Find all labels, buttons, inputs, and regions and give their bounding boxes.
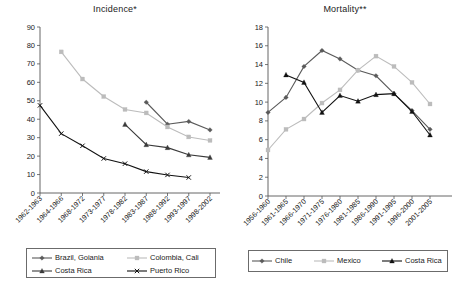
incidence-panel: Incidence* 01020304050607080901962-19631… <box>0 0 230 282</box>
legend-label: Chile <box>275 256 292 266</box>
legend-label: Puerto Rico <box>150 266 189 276</box>
legend-label: Brazil, Goiania <box>55 253 104 263</box>
figure-root: Incidence* 01020304050607080901962-19631… <box>0 0 460 282</box>
legend-entry: Puerto Rico <box>126 266 221 276</box>
svg-text:90: 90 <box>27 23 35 32</box>
mortality-legend: ChileMexicoCosta Rica <box>248 250 448 272</box>
legend-entry: Brazil, Goiania <box>31 253 126 263</box>
svg-text:16: 16 <box>255 41 263 50</box>
svg-text:30: 30 <box>27 133 35 142</box>
triangle-marker-icon <box>381 256 403 266</box>
legend-entry: Costa Rica <box>381 256 451 266</box>
diamond-marker-icon <box>31 253 53 263</box>
legend-label: Costa Rica <box>55 266 92 276</box>
svg-text:18: 18 <box>255 23 263 32</box>
triangle-marker-icon <box>31 266 53 276</box>
square-marker-icon <box>126 253 148 263</box>
svg-text:70: 70 <box>27 59 35 68</box>
mortality-panel: Mortality** 0246810121416181956-19601961… <box>230 0 460 282</box>
svg-text:60: 60 <box>27 78 35 87</box>
svg-text:12: 12 <box>255 79 263 88</box>
diamond-marker-icon <box>251 256 273 266</box>
svg-text:10: 10 <box>255 98 263 107</box>
svg-text:14: 14 <box>255 60 263 69</box>
svg-text:50: 50 <box>27 96 35 105</box>
svg-text:20: 20 <box>27 152 35 161</box>
legend-label: Colombia, Cali <box>150 253 199 263</box>
svg-text:10: 10 <box>27 170 35 179</box>
legend-label: Mexico <box>337 256 361 266</box>
svg-text:8: 8 <box>259 116 263 125</box>
legend-entry: Mexico <box>313 256 381 266</box>
legend-entry: Costa Rica <box>31 266 126 276</box>
legend-entry: Colombia, Cali <box>126 253 221 263</box>
incidence-plot: 01020304050607080901962-19631964-1966196… <box>0 0 230 245</box>
svg-text:40: 40 <box>27 115 35 124</box>
square-marker-icon <box>313 256 335 266</box>
svg-text:80: 80 <box>27 41 35 50</box>
mortality-plot: 0246810121416181956-19601961-19651966-19… <box>230 0 460 245</box>
svg-text:6: 6 <box>259 135 263 144</box>
legend-label: Costa Rica <box>405 256 442 266</box>
svg-text:2: 2 <box>259 173 263 182</box>
svg-text:4: 4 <box>259 154 263 163</box>
x-marker-icon <box>126 266 148 276</box>
legend-entry: Chile <box>251 256 313 266</box>
incidence-legend: Brazil, GoianiaColombia, CaliCosta RicaP… <box>26 248 216 278</box>
